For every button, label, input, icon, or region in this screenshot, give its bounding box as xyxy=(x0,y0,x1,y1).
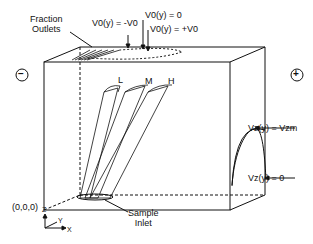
hidden-edge-depth xyxy=(44,195,80,210)
v0-neg-label: V0(y) = -V0 xyxy=(92,18,138,28)
band-L-label: L xyxy=(118,75,123,85)
v0-pos-label: V0(y) = +V0 xyxy=(150,24,198,34)
plus-electrode-label: + xyxy=(293,69,299,79)
fraction-outlets-label: Fraction Outlets xyxy=(30,14,63,34)
fraction-outlets-leader xyxy=(70,32,92,47)
z-axis-label: Z xyxy=(42,205,46,215)
origin-label: (0,0,0) xyxy=(12,202,38,212)
band-M-label: M xyxy=(145,76,153,86)
vz-max-label: Vz(y) = Vzm xyxy=(248,123,297,133)
minus-electrode-label: − xyxy=(18,69,24,79)
band-L xyxy=(80,86,120,198)
y-axis xyxy=(45,222,57,228)
x-axis-label: X xyxy=(67,225,72,235)
box-front-face xyxy=(44,62,230,210)
box-top-face xyxy=(44,47,265,62)
band-H-label: H xyxy=(168,76,175,86)
vz-zero-label: Vz(y) = 0 xyxy=(248,173,284,183)
v0-zero-label: V0(y) = 0 xyxy=(145,10,182,20)
sample-inlet-label: Sample Inlet xyxy=(128,208,159,228)
fraction-outlet-hatching xyxy=(72,50,120,60)
y-axis-label: Y xyxy=(58,216,63,226)
band-H xyxy=(90,85,172,198)
